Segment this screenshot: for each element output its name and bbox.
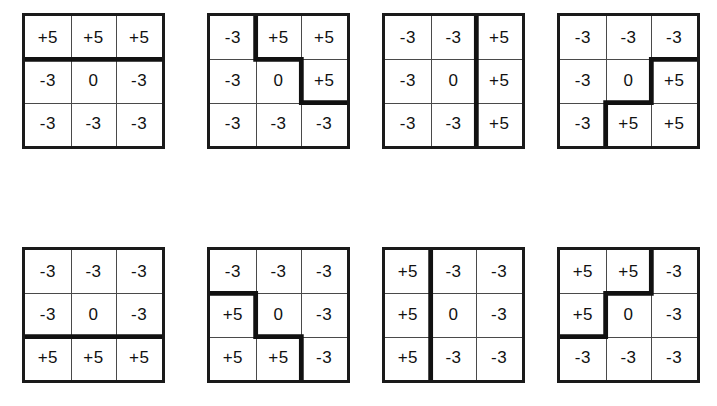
kernel-cells-5: -3 -3 -3 -3 0 -3 +5 +5 +5 — [25, 250, 162, 380]
kernel-cell: -3 — [560, 103, 606, 146]
kernel-inner-4: -3 -3 -3 -3 0 +5 -3 +5 +5 — [560, 16, 697, 146]
kernel-row-top: +5 +5 +5 -3 0 -3 -3 -3 -3 — [0, 13, 717, 149]
kernel-grid-5: -3 -3 -3 -3 0 -3 +5 +5 +5 — [22, 247, 165, 383]
kernel-cell: +5 — [71, 16, 117, 59]
kernel-grid-7: +5 -3 -3 +5 0 -3 +5 -3 -3 — [382, 247, 525, 383]
kernel-cell: -3 — [25, 59, 71, 102]
kernel-cell: +5 — [301, 16, 347, 59]
kernel-cell: -3 — [210, 59, 256, 102]
kernel-cell: -3 — [385, 16, 431, 59]
kernel-cell: -3 — [210, 103, 256, 146]
kernel-cell: -3 — [116, 103, 162, 146]
kernel-cell: +5 — [606, 250, 652, 293]
kernel-cells-8: +5 +5 -3 +5 0 -3 -3 -3 -3 — [560, 250, 697, 380]
kernel-cell: +5 — [385, 337, 431, 380]
kernel-cell: -3 — [431, 250, 477, 293]
kernel-cell: -3 — [116, 250, 162, 293]
kernel-inner-5: -3 -3 -3 -3 0 -3 +5 +5 +5 — [25, 250, 162, 380]
kernel-cell: -3 — [651, 16, 697, 59]
kernel-cell-center: 0 — [256, 59, 302, 102]
kernel-cell-center: 0 — [606, 293, 652, 336]
kernel-grid-3: -3 -3 +5 -3 0 +5 -3 -3 +5 — [382, 13, 525, 149]
kernel-cell: +5 — [256, 16, 302, 59]
kernel-cell: -3 — [431, 103, 477, 146]
kernel-cell: +5 — [116, 16, 162, 59]
kernel-cell: +5 — [25, 16, 71, 59]
kernel-cell: -3 — [25, 250, 71, 293]
kernel-cell: -3 — [25, 103, 71, 146]
kernel-cell: +5 — [606, 103, 652, 146]
kernel-cell: +5 — [301, 59, 347, 102]
kernel-cell-center: 0 — [71, 59, 117, 102]
kernel-cell: -3 — [560, 337, 606, 380]
kernel-grid-6: -3 -3 -3 +5 0 -3 +5 +5 -3 — [207, 247, 350, 383]
kernel-cell: +5 — [651, 103, 697, 146]
kernel-cell: -3 — [301, 337, 347, 380]
kernel-cell: -3 — [476, 293, 522, 336]
kernel-cell-center: 0 — [256, 293, 302, 336]
kernel-row-bottom: -3 -3 -3 -3 0 -3 +5 +5 +5 — [0, 247, 717, 383]
kernel-cells-2: -3 +5 +5 -3 0 +5 -3 -3 -3 — [210, 16, 347, 146]
kernel-cell: +5 — [210, 293, 256, 336]
kernel-cell: -3 — [385, 59, 431, 102]
kernel-inner-8: +5 +5 -3 +5 0 -3 -3 -3 -3 — [560, 250, 697, 380]
kernel-cell: -3 — [210, 250, 256, 293]
kernel-grid-1: +5 +5 +5 -3 0 -3 -3 -3 -3 — [22, 13, 165, 149]
kernel-cell: -3 — [116, 59, 162, 102]
kernel-cell: +5 — [476, 59, 522, 102]
kernel-cell: +5 — [256, 337, 302, 380]
kernel-inner-3: -3 -3 +5 -3 0 +5 -3 -3 +5 — [385, 16, 522, 146]
kernel-cell-center: 0 — [431, 293, 477, 336]
kernel-cell: +5 — [560, 250, 606, 293]
kernel-cell: -3 — [116, 293, 162, 336]
kernel-cell: -3 — [71, 250, 117, 293]
kernel-inner-2: -3 +5 +5 -3 0 +5 -3 -3 -3 — [210, 16, 347, 146]
kernel-cell: +5 — [651, 59, 697, 102]
kernel-cell: -3 — [71, 103, 117, 146]
kernel-cell: +5 — [476, 103, 522, 146]
kernel-inner-7: +5 -3 -3 +5 0 -3 +5 -3 -3 — [385, 250, 522, 380]
kernel-cell: -3 — [651, 337, 697, 380]
kernel-cell: -3 — [431, 16, 477, 59]
kernel-cell: -3 — [476, 337, 522, 380]
kernel-cell: +5 — [476, 16, 522, 59]
kernel-cell: -3 — [651, 293, 697, 336]
kernel-cell: -3 — [560, 16, 606, 59]
kernel-cell: +5 — [560, 293, 606, 336]
kernel-cell: -3 — [256, 103, 302, 146]
kernel-grid-2: -3 +5 +5 -3 0 +5 -3 -3 -3 — [207, 13, 350, 149]
kernel-cell: -3 — [385, 103, 431, 146]
kernel-cell: +5 — [25, 337, 71, 380]
kernel-cell: -3 — [256, 250, 302, 293]
kernel-cell: +5 — [385, 293, 431, 336]
kernel-cells-4: -3 -3 -3 -3 0 +5 -3 +5 +5 — [560, 16, 697, 146]
kernel-inner-6: -3 -3 -3 +5 0 -3 +5 +5 -3 — [210, 250, 347, 380]
kernel-cell: -3 — [476, 250, 522, 293]
kernel-cell: +5 — [385, 250, 431, 293]
kernel-cell-center: 0 — [431, 59, 477, 102]
kernel-cell-center: 0 — [71, 293, 117, 336]
kernel-sheet: +5 +5 +5 -3 0 -3 -3 -3 -3 — [0, 0, 717, 406]
kernel-cell: +5 — [116, 337, 162, 380]
kernel-cell: -3 — [25, 293, 71, 336]
kernel-grid-4: -3 -3 -3 -3 0 +5 -3 +5 +5 — [557, 13, 700, 149]
kernel-cells-7: +5 -3 -3 +5 0 -3 +5 -3 -3 — [385, 250, 522, 380]
kernel-cell: -3 — [210, 16, 256, 59]
kernel-cell: +5 — [210, 337, 256, 380]
kernel-cells-1: +5 +5 +5 -3 0 -3 -3 -3 -3 — [25, 16, 162, 146]
kernel-cell-center: 0 — [606, 59, 652, 102]
kernel-cell: -3 — [606, 337, 652, 380]
kernel-cell: -3 — [560, 59, 606, 102]
kernel-grid-8: +5 +5 -3 +5 0 -3 -3 -3 -3 — [557, 247, 700, 383]
kernel-cell: -3 — [301, 103, 347, 146]
kernel-cell: -3 — [606, 16, 652, 59]
kernel-inner-1: +5 +5 +5 -3 0 -3 -3 -3 -3 — [25, 16, 162, 146]
kernel-cell: -3 — [651, 250, 697, 293]
kernel-cells-6: -3 -3 -3 +5 0 -3 +5 +5 -3 — [210, 250, 347, 380]
kernel-cell: -3 — [431, 337, 477, 380]
kernel-cell: -3 — [301, 293, 347, 336]
kernel-cell: +5 — [71, 337, 117, 380]
kernel-cell: -3 — [301, 250, 347, 293]
kernel-cells-3: -3 -3 +5 -3 0 +5 -3 -3 +5 — [385, 16, 522, 146]
